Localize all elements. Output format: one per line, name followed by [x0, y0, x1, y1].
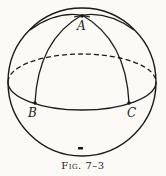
- bottom-mark: [78, 147, 83, 150]
- point-a: [80, 14, 84, 18]
- figure-caption: Fig. 7–3: [0, 160, 166, 171]
- equator-back-dashed: [8, 54, 156, 82]
- label-a: A: [76, 19, 86, 33]
- point-c: [127, 101, 131, 105]
- sphere-diagram: A B C: [0, 0, 166, 176]
- label-c: C: [127, 106, 136, 120]
- label-b: B: [27, 106, 37, 120]
- point-b: [33, 101, 37, 105]
